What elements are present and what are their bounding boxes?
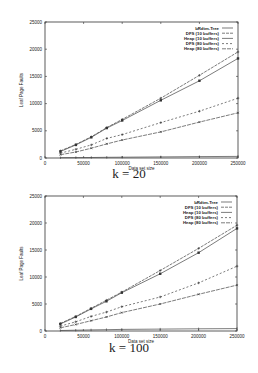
y-tick-label: 5000 bbox=[32, 128, 43, 133]
y-tick-label: 0 bbox=[39, 156, 42, 161]
y-axis-label: Leaf Page Faults bbox=[19, 72, 24, 107]
series-line bbox=[60, 156, 238, 157]
x-tick-label: 0 bbox=[44, 334, 47, 339]
series-line bbox=[60, 228, 237, 324]
y-tick-label: 5000 bbox=[32, 302, 43, 307]
y-axis-label: Leaf Page Faults bbox=[19, 246, 24, 281]
series-line bbox=[60, 113, 238, 155]
legend-entry: Heap (80 buffers) bbox=[183, 220, 219, 225]
y-tick-label: 15000 bbox=[29, 74, 42, 79]
x-tick-label: 150000 bbox=[153, 334, 169, 339]
x-tick-label: 200000 bbox=[191, 334, 207, 339]
y-tick-label: 20000 bbox=[29, 47, 42, 52]
series-line bbox=[60, 225, 237, 323]
series-line bbox=[60, 285, 237, 328]
y-tick-label: 0 bbox=[39, 329, 42, 334]
x-tick-label: 50000 bbox=[77, 334, 90, 339]
series-line bbox=[60, 329, 237, 331]
y-tick-label: 25000 bbox=[29, 20, 42, 25]
chart-k20: 0500001000001500002000002500000500010000… bbox=[0, 0, 258, 185]
y-tick-label: 15000 bbox=[29, 248, 42, 253]
y-tick-label: 25000 bbox=[29, 194, 42, 199]
chart-caption-k100: k = 100 bbox=[0, 340, 258, 356]
y-tick-label: 10000 bbox=[29, 275, 42, 280]
series-line bbox=[60, 266, 237, 326]
legend-entry: Heap (80 buffers) bbox=[184, 46, 220, 51]
y-tick-label: 20000 bbox=[29, 221, 42, 226]
y-tick-label: 10000 bbox=[29, 101, 42, 106]
series-line bbox=[60, 52, 238, 151]
chart-caption-k20: k = 20 bbox=[0, 166, 258, 182]
x-tick-label: 250000 bbox=[229, 334, 245, 339]
